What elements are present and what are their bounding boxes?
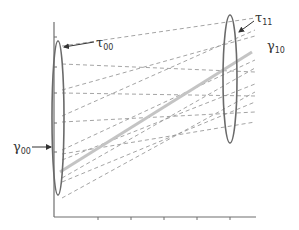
gamma00-symbol: γ (13, 139, 21, 154)
individual-line (62, 68, 255, 178)
tau11-arrow (239, 21, 254, 32)
multilevel-growth-diagram (0, 0, 299, 230)
gamma10-symbol: γ (267, 38, 275, 53)
gamma10-subscript: 10 (275, 46, 285, 55)
gamma00-label: γ00 (13, 140, 31, 156)
individual-line (62, 92, 255, 198)
gamma10-label: γ10 (267, 39, 285, 55)
gamma00-subscript: 00 (21, 147, 31, 156)
tau00-label: τ00 (96, 36, 113, 52)
individual-line (62, 102, 255, 182)
tau00-subscript: 00 (103, 43, 113, 52)
individual-line (62, 60, 255, 150)
individual-regression-lines (62, 18, 255, 198)
tau11-subscript: 11 (262, 18, 272, 27)
individual-line (62, 112, 255, 122)
tau00-arrow (64, 42, 94, 47)
individual-line (62, 84, 255, 160)
individual-line (62, 36, 255, 90)
tau11-label: τ11 (255, 11, 272, 27)
variance-ellipses (52, 15, 237, 195)
